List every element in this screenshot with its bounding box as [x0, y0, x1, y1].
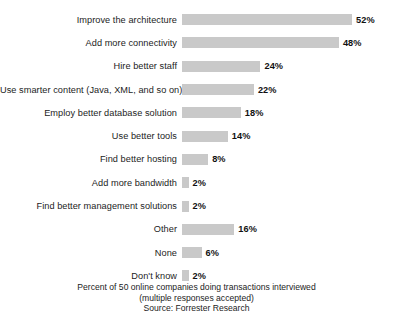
bar: [182, 154, 208, 165]
chart-row: Find better management solutions2%: [0, 194, 393, 217]
category-label: Find better management solutions: [0, 201, 182, 211]
bar-value-label: 2%: [193, 201, 206, 211]
bar: [182, 201, 189, 212]
bar-area: 8%: [182, 148, 393, 171]
chart-row: Add more connectivity48%: [0, 31, 393, 54]
caption-line-1: Percent of 50 online companies doing tra…: [0, 282, 393, 293]
category-label: Improve the architecture: [0, 15, 182, 25]
bar: [182, 37, 339, 48]
bar-value-label: 2%: [193, 271, 206, 281]
bar: [182, 224, 234, 235]
bar-value-label: 14%: [232, 131, 251, 141]
bar: [182, 84, 254, 95]
category-label: Add more bandwidth: [0, 178, 182, 188]
bar-value-label: 2%: [193, 178, 206, 188]
category-label: Add more connectivity: [0, 38, 182, 48]
chart-rows: Improve the architecture52%Add more conn…: [0, 8, 393, 288]
bar-area: 22%: [182, 78, 393, 101]
category-label: Don't know: [0, 271, 182, 281]
bar: [182, 107, 241, 118]
chart-row: None6%: [0, 241, 393, 264]
bar: [182, 247, 202, 258]
bar: [182, 14, 352, 25]
chart-row: Use better tools14%: [0, 124, 393, 147]
bar-area: 24%: [182, 55, 393, 78]
category-label: Employ better database solution: [0, 108, 182, 118]
bar-value-label: 18%: [245, 108, 264, 118]
bar: [182, 270, 189, 281]
bar-area: 2%: [182, 194, 393, 217]
category-label: None: [0, 248, 182, 258]
bar-area: 18%: [182, 101, 393, 124]
bar-value-label: 52%: [356, 15, 375, 25]
bar-area: 14%: [182, 124, 393, 147]
category-label: Find better hosting: [0, 154, 182, 164]
chart-row: Improve the architecture52%: [0, 8, 393, 31]
category-label: Use better tools: [0, 131, 182, 141]
chart-row: Add more bandwidth2%: [0, 171, 393, 194]
bar-value-label: 16%: [238, 224, 257, 234]
chart-row: Employ better database solution18%: [0, 101, 393, 124]
bar-value-label: 8%: [212, 154, 225, 164]
bar-value-label: 24%: [264, 61, 283, 71]
bar-value-label: 6%: [206, 248, 219, 258]
category-label: Hire better staff: [0, 61, 182, 71]
chart-row: Find better hosting8%: [0, 148, 393, 171]
bar-value-label: 22%: [258, 85, 277, 95]
bar-value-label: 48%: [343, 38, 362, 48]
bar-area: 6%: [182, 241, 393, 264]
bar-area: 16%: [182, 218, 393, 241]
bar-area: 2%: [182, 171, 393, 194]
category-label: Use smarter content (Java, XML, and so o…: [0, 85, 182, 95]
category-label: Other: [0, 224, 182, 234]
bar: [182, 177, 189, 188]
caption-line-3: Source: Forrester Research: [0, 303, 393, 314]
caption-line-2: (multiple responses accepted): [0, 293, 393, 304]
chart-row: Other16%: [0, 218, 393, 241]
bar: [182, 61, 260, 72]
bar: [182, 131, 228, 142]
chart-caption: Percent of 50 online companies doing tra…: [0, 282, 393, 314]
chart-row: Use smarter content (Java, XML, and so o…: [0, 78, 393, 101]
bar-area: 48%: [182, 31, 393, 54]
bar-area: 52%: [182, 8, 393, 31]
chart-row: Hire better staff24%: [0, 55, 393, 78]
